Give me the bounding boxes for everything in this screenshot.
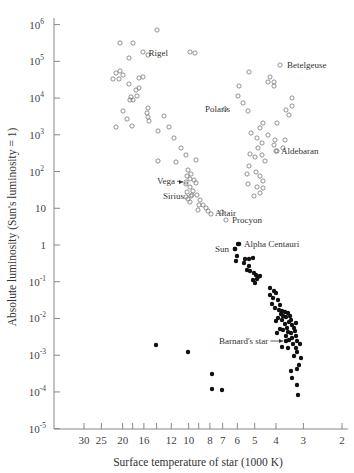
x-tick-label: 3 [301, 434, 307, 446]
x-tick-label: 8 [207, 434, 213, 446]
filled-dot-marker [289, 369, 293, 373]
annotated-star-marker [188, 50, 192, 54]
open-circle-marker [127, 82, 131, 86]
filled-dot-marker [234, 259, 238, 263]
filled-dot-marker [186, 350, 190, 354]
y-tick-label: 10-2 [29, 310, 46, 324]
open-circle-marker [261, 179, 265, 183]
y-tick-label: 10-1 [29, 274, 46, 288]
filled-dot-marker [235, 254, 239, 258]
filled-dot-marker [294, 346, 298, 350]
open-circle-marker [196, 208, 200, 212]
open-circle-marker [156, 129, 160, 133]
x-tick-label: 4 [273, 434, 279, 446]
open-circle-marker [194, 181, 198, 185]
open-circle-marker [118, 41, 122, 45]
y-axis-title: Absolute luminosity (Sun's luminosity = … [6, 128, 19, 327]
open-circle-marker [261, 186, 265, 190]
open-circle-marker [260, 153, 264, 157]
y-axis-ticks: 10610510410310210110-110-210-310-410-5 [29, 17, 60, 435]
annotation-sun: Sun [215, 244, 237, 254]
annotation-betelgeuse: Betelgeuse [278, 60, 327, 70]
open-circle-marker [249, 131, 253, 135]
y-tick-label: 106 [29, 17, 44, 31]
open-circle-marker [284, 108, 288, 112]
open-circle-marker [193, 51, 197, 55]
open-circle-marker [261, 121, 265, 125]
filled-dot-marker [296, 393, 300, 397]
filled-dot-marker [210, 387, 214, 391]
star-label: Vega [157, 176, 175, 186]
open-circle-marker [141, 50, 145, 54]
annotation-sirius: Sirius [163, 191, 193, 201]
star-label: Polaris [205, 104, 230, 114]
open-circle-marker [118, 69, 122, 73]
filled-dot-marker [247, 257, 251, 261]
filled-dot-marker [283, 322, 287, 326]
star-label: Procyon [232, 215, 262, 225]
open-circle-marker [290, 104, 294, 108]
open-circle-marker [189, 172, 193, 176]
data-points [111, 28, 303, 397]
filled-dot-marker [270, 302, 274, 306]
open-circle-marker [258, 174, 262, 178]
annotation-polaris: Polaris [205, 104, 230, 114]
filled-dot-marker [242, 261, 246, 265]
filled-dot-marker [210, 372, 214, 376]
y-tick-label: 104 [29, 90, 44, 104]
open-circle-marker [172, 136, 176, 140]
x-axis-title: Surface temperature of star (1000 K) [113, 456, 283, 469]
open-circle-marker [188, 185, 192, 189]
annotation-rigel: Rigel [149, 48, 193, 58]
open-circle-marker [146, 106, 150, 110]
open-circle-marker [287, 113, 291, 117]
x-tick-label: 6 [235, 434, 241, 446]
star-label: Barnard's star [219, 336, 268, 346]
filled-dot-marker [297, 363, 301, 367]
open-circle-marker [273, 138, 277, 142]
filled-dot-marker [154, 343, 158, 347]
filled-dot-marker [294, 334, 298, 338]
open-circle-marker [260, 141, 264, 145]
filled-dot-marker [274, 319, 278, 323]
y-tick-label: 102 [29, 164, 44, 178]
filled-dot-marker [253, 281, 257, 285]
axes [54, 18, 348, 429]
filled-dot-marker [247, 264, 251, 268]
filled-dot-marker [284, 334, 288, 338]
annotation-alpha-centauri: Alpha Centauri [237, 239, 300, 249]
filled-dot-series [233, 242, 303, 397]
filled-dot-marker [251, 256, 255, 260]
open-circle-marker [131, 41, 135, 45]
open-circle-marker [130, 124, 134, 128]
open-circle-marker [114, 125, 118, 129]
open-circle-marker [258, 191, 262, 195]
filled-dot-marker [258, 274, 262, 278]
open-circle-marker [248, 152, 252, 156]
y-tick-label: 10-3 [29, 347, 46, 361]
open-circle-marker [185, 190, 189, 194]
open-circle-marker [197, 203, 201, 207]
open-circle-marker [245, 172, 249, 176]
filled-dot-marker [295, 383, 299, 387]
open-circle-marker [237, 84, 241, 88]
filled-dot-marker [292, 354, 296, 358]
open-circle-marker [246, 182, 250, 186]
filled-dot-marker [275, 331, 279, 335]
open-circle-marker [194, 158, 198, 162]
y-tick-label: 103 [29, 127, 44, 141]
filled-dot-marker [293, 329, 297, 333]
filled-dot-marker [290, 376, 294, 380]
open-circle-marker [272, 84, 276, 88]
open-circle-marker [179, 146, 183, 150]
annotation-aldebaran: Aldebaran [274, 146, 319, 156]
star-label: Sirius [163, 191, 185, 201]
filled-dot-marker [295, 367, 299, 371]
annotated-star-marker [284, 339, 289, 344]
open-circle-marker [198, 198, 202, 202]
open-circle-marker [117, 77, 121, 81]
filled-dot-marker [294, 321, 298, 325]
star-label: Sun [215, 244, 230, 254]
star-label: Aldebaran [281, 146, 319, 156]
filled-dot-marker [285, 326, 289, 330]
